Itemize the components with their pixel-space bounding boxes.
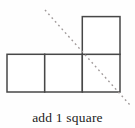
grid-square bbox=[82, 54, 120, 92]
grid-square bbox=[82, 17, 120, 55]
grid-square bbox=[45, 54, 83, 92]
puzzle-figure: add 1 square bbox=[0, 0, 135, 128]
polyomino-diagram bbox=[0, 0, 135, 110]
figure-caption: add 1 square bbox=[0, 110, 135, 126]
grid-square bbox=[7, 54, 45, 92]
